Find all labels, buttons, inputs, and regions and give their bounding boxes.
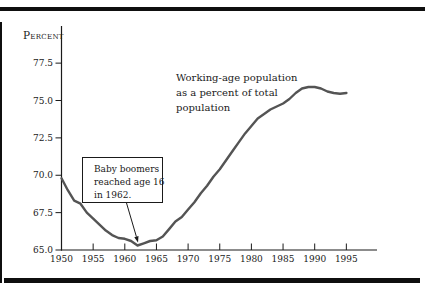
series-annotation: Working-age population as a percent of t… <box>176 72 298 113</box>
y-tick-label: 70.0 <box>33 170 53 180</box>
line-chart: Percent 77.575.072.570.067.565.0 1950195… <box>0 0 432 288</box>
x-tick-label: 1980 <box>240 254 263 264</box>
y-axis-unit-label: Percent <box>23 29 64 41</box>
x-tick-label: 1975 <box>208 254 231 264</box>
callout-line-1: Baby boomers <box>94 164 159 174</box>
x-tick-label: 1960 <box>113 254 136 264</box>
series-annotation-line-1: Working-age population <box>176 72 298 83</box>
callout: Baby boomers reached age 16 in 1962. <box>83 158 165 243</box>
y-tick-label: 77.5 <box>33 58 53 68</box>
x-axis-ticks: 1950195519601965197019751980198519901995 <box>50 244 358 265</box>
y-tick-label: 72.5 <box>33 133 53 143</box>
x-tick-label: 1950 <box>50 254 73 264</box>
series-annotation-line-3: population <box>176 102 231 113</box>
x-tick-label: 1965 <box>145 254 168 264</box>
y-axis-ticks: 77.575.072.570.067.565.0 <box>33 58 62 255</box>
callout-line-2: reached age 16 <box>94 177 165 187</box>
callout-arrowhead <box>134 236 138 242</box>
series-annotation-line-2: as a percent of total <box>176 87 278 98</box>
y-tick-label: 67.5 <box>33 208 53 218</box>
x-tick-label: 1990 <box>303 254 326 264</box>
callout-arrow-line <box>127 203 137 237</box>
x-tick-label: 1985 <box>272 254 295 264</box>
x-tick-label: 1995 <box>335 254 358 264</box>
x-tick-label: 1970 <box>177 254 200 264</box>
y-tick-label: 75.0 <box>33 96 53 106</box>
figure-frame: Percent 77.575.072.570.067.565.0 1950195… <box>0 0 432 288</box>
x-tick-label: 1955 <box>82 254 105 264</box>
callout-line-3: in 1962. <box>94 190 131 200</box>
